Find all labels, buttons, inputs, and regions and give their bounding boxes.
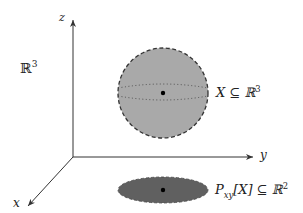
sphere-label-dim: 3	[255, 84, 260, 94]
projection-operator: P	[215, 182, 224, 197]
z-axis-label: z	[59, 12, 65, 23]
x-axis-label: x	[13, 197, 20, 209]
space-label: ℝ3	[20, 60, 37, 75]
x-axis	[28, 157, 73, 206]
sphere-center-point	[161, 91, 165, 95]
sphere-label-text: X ⊆ ℝ	[216, 85, 255, 100]
y-axis-label: y	[260, 149, 267, 161]
projection-center-point	[161, 188, 165, 192]
projection-label-dim: 2	[283, 181, 288, 191]
space-symbol: ℝ	[20, 60, 32, 76]
projection-subscript: xy	[224, 190, 234, 200]
space-dim: 3	[32, 59, 38, 69]
sphere-label: X ⊆ ℝ3	[216, 85, 261, 99]
projection-label: Pxy[X] ⊆ ℝ2	[215, 182, 288, 199]
projection-label-text: [X] ⊆ ℝ	[233, 182, 282, 197]
